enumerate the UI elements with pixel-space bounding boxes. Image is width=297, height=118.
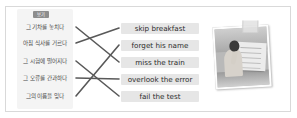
english-item-1[interactable]: skip breakfast	[121, 23, 199, 34]
tape-strip-icon	[242, 20, 258, 32]
photo-person-head	[229, 40, 240, 52]
connector-kr2-en1	[76, 28, 119, 43]
connector-kr5-en2	[76, 45, 119, 96]
english-item-4[interactable]: overlook the error	[121, 74, 199, 85]
english-item-3[interactable]: miss the train	[121, 57, 199, 68]
worksheet-canvas: 보기 그 기차를 놓치다 아침 식사를 거르다 그 시험에 떨어지다 그 오류를…	[0, 0, 297, 118]
student-studying-photo	[212, 24, 271, 89]
english-item-5[interactable]: fail the test	[121, 91, 199, 102]
connector-kr4-en4	[76, 78, 119, 79]
photo-frame	[212, 24, 271, 89]
english-item-2[interactable]: forget his name	[121, 40, 199, 51]
connector-kr1-en3	[76, 27, 119, 62]
